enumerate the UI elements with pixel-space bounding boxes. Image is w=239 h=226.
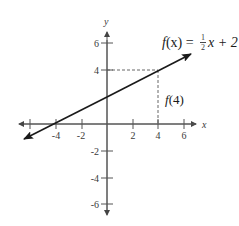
fraction-numerator: 1 [201,33,205,42]
x-tick-label: -4 [52,130,60,141]
function-graph: -4 -2 2 4 6 6 4 -2 -4 -6 x y f(x) = 1 2 … [0,0,239,226]
f4-label: f(4) [165,92,184,107]
y-tick-label: 4 [94,65,99,76]
x-tick-label: -2 [77,130,85,141]
x-tick-label: 2 [131,130,136,141]
x-tick-label: 6 [182,130,187,141]
x-axis-label: x [201,119,207,130]
fraction-denominator: 2 [201,43,205,52]
y-tick-label: -2 [91,146,99,157]
graph-canvas: -4 -2 2 4 6 6 4 -2 -4 -6 x y f(x) = 1 2 … [0,0,239,226]
function-label: f(x) = 1 2 x + 2 [162,33,238,52]
x-tick-label: 4 [156,130,161,141]
svg-text:x + 2: x + 2 [207,35,238,50]
y-axis-label: y [103,16,109,27]
svg-text:f(x) =: f(x) = [162,35,194,51]
y-tick-label: -4 [91,173,99,184]
y-tick-label: 6 [94,38,99,49]
y-tick-label: -6 [91,199,99,210]
function-line-left [24,97,107,139]
function-line [107,54,191,97]
